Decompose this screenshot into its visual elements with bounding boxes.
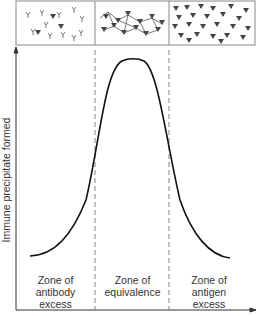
zone-label-line: antibody bbox=[18, 286, 93, 298]
zone-equivalence-label: Zone of equivalence bbox=[96, 274, 169, 298]
zone-label-line: Zone of bbox=[96, 274, 169, 286]
complex-panels bbox=[16, 1, 255, 45]
zone-label-line: antigen bbox=[170, 286, 248, 298]
y-axis-label: Immune precipitate formed bbox=[0, 100, 12, 260]
zone-label-line: excess bbox=[170, 298, 248, 310]
zone-antibody-excess-label: Zone of antibody excess bbox=[18, 274, 93, 310]
zone-label-line: excess bbox=[18, 298, 93, 310]
zone-label-line: equivalence bbox=[96, 286, 169, 298]
zone-antigen-excess-label: Zone of antigen excess bbox=[170, 274, 248, 310]
zone-label-line: Zone of bbox=[170, 274, 248, 286]
zone-dividers bbox=[95, 50, 169, 310]
zone-label-line: Zone of bbox=[18, 274, 93, 286]
precipitation-curve bbox=[30, 59, 230, 258]
axes bbox=[14, 47, 256, 312]
diagram-canvas bbox=[0, 0, 258, 316]
